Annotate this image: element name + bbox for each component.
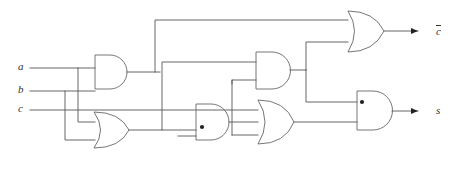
wire-g2-to-g4 — [162, 62, 256, 130]
gate-or-g5-body — [258, 100, 294, 144]
gate-and-g7-body — [357, 91, 393, 130]
gate-or-g2 — [94, 112, 196, 148]
circuit-svg — [0, 0, 454, 176]
output-label-sum: s — [436, 105, 440, 116]
input-wires — [30, 68, 258, 140]
input-label-b: b — [18, 84, 24, 95]
junction-dot-g7-input — [360, 100, 364, 104]
mid-routing-wires — [155, 20, 348, 135]
gate-and-g1-body — [95, 55, 127, 89]
input-label-a: a — [18, 61, 24, 72]
wire-b-branch-down — [65, 91, 95, 140]
output-label-carry-text: c — [436, 25, 441, 37]
carry-output-arrowhead — [411, 28, 418, 34]
wire-branch-to-g4-lower — [232, 80, 256, 84]
circuit-diagram-canvas: a b c c s — [0, 0, 454, 176]
input-label-c: c — [18, 103, 23, 114]
wire-g1-to-top-rail — [155, 20, 348, 72]
sum-output-arrowhead — [411, 108, 418, 114]
wire-a-branch-down — [78, 68, 95, 122]
gate-and-g7 — [357, 91, 418, 130]
gate-and-g4-body — [256, 52, 291, 89]
gate-or-g6 — [348, 11, 418, 52]
wire-g4-to-g6 — [306, 42, 348, 70]
gate-and-g1 — [95, 55, 160, 89]
gate-or-g6-body — [348, 11, 384, 52]
wire-node-down-to-g7 — [306, 70, 357, 102]
junction-dot-g3-input — [200, 125, 204, 129]
gate-or-g2-body — [94, 112, 129, 148]
gate-and-g3-body — [196, 104, 229, 140]
gate-and-g4 — [256, 52, 306, 89]
output-label-carry: c — [436, 25, 441, 37]
